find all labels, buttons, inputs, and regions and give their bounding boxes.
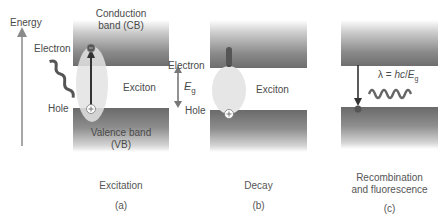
emitted-photon-wave-icon: [369, 90, 411, 98]
recombined-pair-icon: [355, 106, 362, 113]
panel-c-graphics: [0, 0, 444, 218]
